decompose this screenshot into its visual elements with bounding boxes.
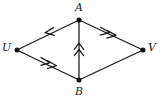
vertex-label-a: A [75, 2, 83, 13]
vertex-label-b: B [75, 86, 83, 97]
edge-b-to-a [74, 20, 83, 80]
vertex-dot-b [77, 78, 82, 83]
vertex-label-u: U [2, 42, 11, 53]
edge-u-to-b [17, 50, 79, 80]
edge-line-b-v [79, 50, 143, 80]
diagram-canvas: A U V B [0, 0, 160, 102]
edge-a-to-u [17, 20, 79, 50]
arrowhead-double-toward-b-2 [47, 61, 56, 69]
edge-b-to-v [79, 50, 143, 80]
vertex-dot-v [141, 48, 146, 53]
vertex-dot-u [15, 48, 20, 53]
edge-line-a-v [79, 20, 143, 50]
vertex-label-v: V [148, 42, 156, 53]
edge-line-a-u [17, 20, 79, 50]
arrowhead-single-toward-u [45, 28, 54, 36]
edge-line-u-b [17, 50, 79, 80]
vertex-dot-a [77, 18, 82, 23]
edge-a-to-v [79, 20, 143, 50]
